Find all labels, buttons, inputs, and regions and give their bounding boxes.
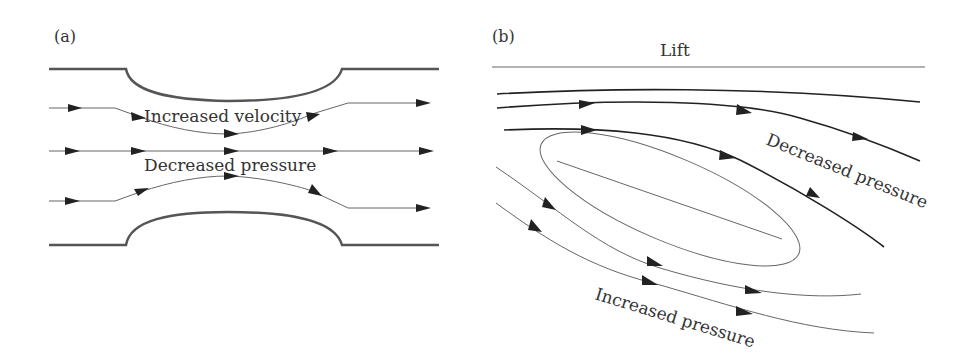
arrow-icon	[579, 100, 595, 109]
panel-b-label: (b)	[492, 27, 515, 46]
increased-pressure-label: Increased pressure	[593, 284, 758, 352]
panel-a: (a) Increased velocity Dec	[49, 27, 439, 245]
chord-line	[557, 161, 782, 239]
panel-b: (b) Lift Decreased pressure Incr	[492, 27, 931, 351]
arrow-icon	[542, 197, 556, 210]
arrow-icon	[306, 112, 320, 122]
increased-velocity-label: Increased velocity	[144, 106, 302, 126]
venturi-and-airfoil-diagram: (a) Increased velocity Dec	[0, 0, 974, 360]
streamline-upper-3	[504, 129, 884, 247]
arrow-icon	[642, 275, 658, 285]
arrow-icon	[308, 184, 322, 196]
arrow-icon	[65, 197, 80, 205]
streamline-lower-1	[496, 167, 861, 296]
lower-wall	[49, 212, 439, 245]
streamline-bottom	[49, 176, 420, 208]
arrow-icon	[224, 147, 239, 155]
panel-a-label: (a)	[54, 27, 76, 46]
arrow-icon	[736, 104, 752, 115]
arrow-icon	[323, 147, 338, 155]
arrow-icon	[647, 256, 663, 266]
arrow-icon	[68, 104, 82, 112]
streamline-upper-2	[497, 102, 920, 161]
arrow-icon	[528, 219, 542, 232]
decreased-pressure-label-a: Decreased pressure	[144, 155, 316, 175]
arrow-icon	[65, 147, 80, 155]
arrow-icon	[745, 285, 762, 294]
arrow-icon	[131, 147, 146, 155]
streamline-upper-1	[497, 90, 920, 102]
lift-label: Lift	[660, 40, 690, 60]
decreased-pressure-label-b: Decreased pressure	[764, 129, 931, 212]
arrow-icon	[419, 147, 434, 155]
upper-wall	[49, 69, 439, 101]
arrow-icon	[719, 150, 736, 160]
arrow-icon	[416, 99, 431, 107]
arrow-icon	[224, 129, 239, 138]
arrow-icon	[134, 188, 149, 196]
arrow-icon	[416, 204, 431, 212]
